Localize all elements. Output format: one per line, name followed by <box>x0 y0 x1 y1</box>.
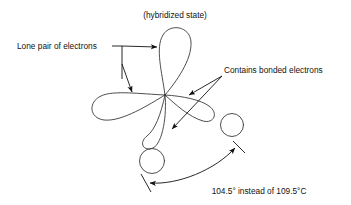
angle-arc-double-arrow <box>150 148 235 183</box>
angle-tick-right <box>233 141 245 153</box>
bond-angle-label: 104.5° instead of 109.5°C <box>212 186 307 196</box>
hybridized-state-label: (hybridized state) <box>143 10 207 20</box>
bonded-arrow-down-lobe <box>172 76 222 129</box>
orbital-diagram-svg: (hybridized state) Lone pair of electron… <box>0 0 351 205</box>
lone-pair-arrow-up <box>122 46 157 47</box>
lone-pair-arrow-left-lobe <box>122 64 132 92</box>
lone-pair-label: Lone pair of electrons <box>17 41 97 51</box>
diagram-canvas: (hybridized state) Lone pair of electron… <box>0 0 351 205</box>
lobe-bonded-right <box>165 95 214 122</box>
lobe-lone-pair-left <box>92 93 165 120</box>
hydrogen-atom-bottom <box>140 149 165 174</box>
bonded-arrow-right-lobe <box>189 76 222 95</box>
angle-tick-left <box>141 174 151 192</box>
hydrogen-atom-right <box>221 114 244 137</box>
lobe-lone-pair-up <box>159 28 191 95</box>
bonded-electrons-label: Contains bonded electrons <box>224 65 323 75</box>
lone-pair-leader-bracket <box>112 46 122 79</box>
lobe-bonded-down <box>143 95 166 149</box>
